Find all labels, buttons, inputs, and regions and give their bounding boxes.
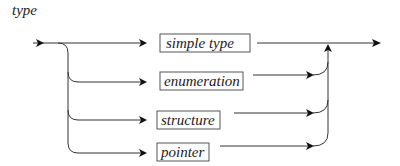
alt-label: structure xyxy=(161,112,215,128)
left-branch xyxy=(58,43,147,157)
alt-simple-type: simple type xyxy=(160,34,250,52)
right-merge xyxy=(220,39,381,150)
alt-label: enumeration xyxy=(164,73,240,89)
alt-pointer: pointer xyxy=(157,143,209,161)
syntax-diagram: simple type enumeration structure pointe… xyxy=(0,0,400,166)
alt-label: pointer xyxy=(160,144,204,160)
alt-label: simple type xyxy=(166,35,234,51)
entry-path xyxy=(33,39,147,47)
alt-structure: structure xyxy=(157,111,220,129)
alt-enumeration: enumeration xyxy=(160,72,243,90)
